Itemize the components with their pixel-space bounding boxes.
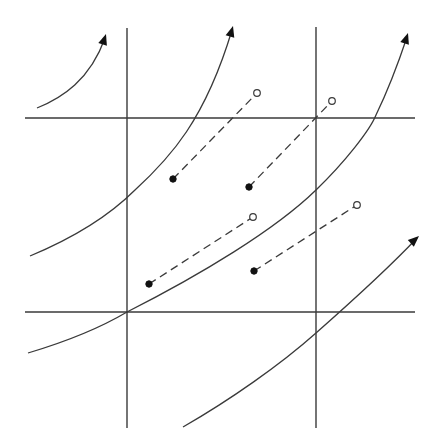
- curve-3-path: [28, 37, 407, 353]
- filled-point-icon: [246, 184, 252, 190]
- curve-3: [28, 32, 412, 353]
- shift-4-dashed-line: [254, 207, 354, 271]
- shift-1-dashed-line: [173, 95, 255, 179]
- filled-point-icon: [251, 268, 257, 274]
- shift-3: [146, 214, 256, 287]
- curve-2: [30, 25, 237, 256]
- grid-lines: [25, 27, 415, 428]
- arrowhead-icon: [400, 32, 412, 45]
- shift-2-dashed-line: [249, 103, 330, 187]
- shift-2: [246, 98, 336, 191]
- arrowhead-icon: [98, 33, 110, 46]
- curve-4-path: [183, 238, 417, 427]
- filled-point-icon: [146, 281, 152, 287]
- displacement-segments: [146, 90, 361, 287]
- curve-1-path: [37, 38, 105, 108]
- open-point-icon: [329, 98, 336, 105]
- open-point-icon: [254, 90, 261, 97]
- open-point-icon: [354, 202, 361, 209]
- flow-curves: [28, 25, 422, 427]
- curve-2-path: [30, 30, 232, 256]
- curve-1: [37, 33, 110, 108]
- open-point-icon: [250, 214, 257, 221]
- filled-point-icon: [170, 176, 176, 182]
- shift-4: [251, 202, 361, 274]
- arrowhead-icon: [226, 25, 238, 38]
- displacement-diagram: [0, 0, 437, 445]
